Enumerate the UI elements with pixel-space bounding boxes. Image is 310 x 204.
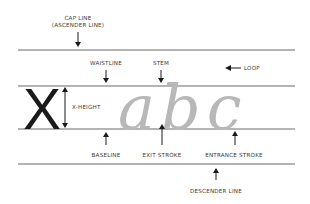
cap-line-sublabel: (ASCENDER LINE) <box>52 22 104 28</box>
letter-anatomy-diagram: abc X X-HEIGHT CAP LINE (ASCENDER LINE) … <box>0 0 310 204</box>
x-height-arrow-icon <box>62 87 68 128</box>
script-letter-a: abc <box>118 71 247 144</box>
baseline-arrow-icon <box>103 132 109 145</box>
baseline-label: BASELINE <box>92 152 121 158</box>
cap-line-label: CAP LINE <box>65 15 92 21</box>
cap-line-arrow-icon <box>75 32 81 47</box>
descender-line-arrow-icon <box>213 168 219 180</box>
reference-letter-x: X <box>23 77 61 141</box>
entrance-stroke-label: ENTRANCE STROKE <box>205 152 263 158</box>
waistline-label: WAISTLINE <box>90 60 122 66</box>
stem-label: STEM <box>153 60 169 66</box>
descender-line-label: DESCENDER LINE <box>190 188 242 194</box>
x-height-label: X-HEIGHT <box>72 104 101 110</box>
loop-label: LOOP <box>244 65 260 71</box>
waistline-arrow-icon <box>103 70 109 83</box>
exit-stroke-label: EXIT STROKE <box>143 152 182 158</box>
